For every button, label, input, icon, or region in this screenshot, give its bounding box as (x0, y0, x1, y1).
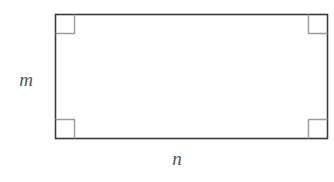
side-label-m: m (12, 70, 40, 89)
side-label-n: n (163, 149, 191, 168)
rectangle-outline (56, 15, 328, 139)
geometry-figure: m n (0, 0, 334, 182)
